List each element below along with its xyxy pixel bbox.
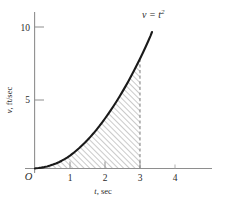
origin-label: O <box>25 171 33 182</box>
y-tick-label-10: 10 <box>21 23 31 33</box>
x-tick-label-1: 1 <box>68 173 73 183</box>
velocity-time-graph: 1 2 3 4 5 10 O t, sec v, ft/sec v = t2 <box>0 0 228 202</box>
x-axis-title-unit: , sec <box>97 186 112 196</box>
curve-label-text: v = t <box>142 9 161 20</box>
x-tick-label-3: 3 <box>138 173 143 183</box>
x-tick-label-2: 2 <box>103 173 108 183</box>
svg-text:v = t2: v = t2 <box>142 8 165 20</box>
curve-equation-label: v = t2 <box>142 8 165 20</box>
y-axis-title-unit: , ft/sec <box>4 87 14 110</box>
y-axis-ticks <box>35 27 44 100</box>
shaded-area-under-curve <box>30 50 148 172</box>
svg-text:v, ft/sec: v, ft/sec <box>4 87 14 114</box>
hatch-fill <box>30 50 148 172</box>
figure-container: 1 2 3 4 5 10 O t, sec v, ft/sec v = t2 <box>0 0 228 202</box>
svg-text:t, sec: t, sec <box>94 186 112 196</box>
curve-label-exponent: 2 <box>161 8 165 16</box>
y-axis-title: v, ft/sec <box>4 87 14 114</box>
y-tick-label-5: 5 <box>25 95 30 105</box>
x-axis-title: t, sec <box>94 186 112 196</box>
x-tick-label-4: 4 <box>173 173 178 183</box>
